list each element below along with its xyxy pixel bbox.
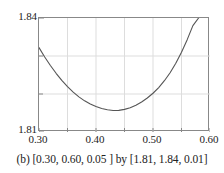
x-axis-ticks (39, 128, 210, 132)
y-axis-top-label: 1.84 (1, 11, 37, 22)
curve-line (39, 18, 199, 111)
y-axis-ticks (39, 18, 44, 132)
x-axis-tick-label: 0.30 (29, 134, 48, 145)
x-axis-labels: 0.300.400.500.60 (0, 134, 224, 148)
x-axis-tick-label: 0.60 (200, 134, 219, 145)
figure-panel: 1.84 1.81 0.300.400.500.60 (b) [0.30, 0.… (0, 0, 224, 173)
plot-canvas (39, 18, 210, 132)
plot-area (38, 17, 209, 131)
x-axis-tick-label: 0.50 (143, 134, 162, 145)
figure-caption: (b) [0.30, 0.60, 0.05 ] by [1.81, 1.84, … (0, 152, 224, 166)
x-axis-tick-label: 0.40 (86, 134, 105, 145)
gridlines (39, 18, 210, 132)
